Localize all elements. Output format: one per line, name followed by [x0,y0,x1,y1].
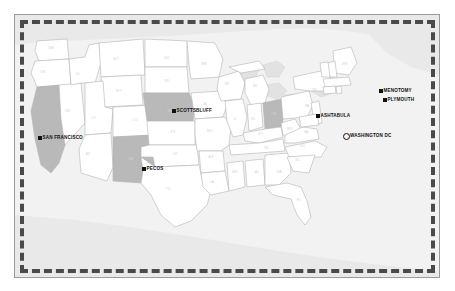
city-label: SAN FRANCISCO [43,135,83,141]
state-abbr-nc: NC [300,144,306,148]
city-square-icon [172,109,176,113]
city-label: ASHTABULA [321,113,351,119]
state-ma [323,77,351,87]
state-abbr-pa: PA [305,104,310,108]
state-abbr-wv: WV [287,127,293,131]
state-abbr-nm: NM [128,157,134,161]
state-abbr-sd: SD [164,79,169,83]
state-abbr-in: IN [251,117,255,121]
state-az [79,133,113,181]
state-abbr-wi: WI [225,82,230,86]
map-figure: WAORCANVIDMTWYUTAZNMCONDSDNEKSOKTXMNIAMO… [0,0,455,291]
state-me [333,47,357,75]
state-vt [320,62,330,77]
us-map-svg: WAORCANVIDMTWYUTAZNMCONDSDNEKSOKTXMNIAMO… [15,15,439,277]
state-abbr-la: LA [210,180,215,184]
state-wi [217,71,245,101]
city-square-icon [38,136,42,140]
state-abbr-ny: NY [312,88,318,92]
state-abbr-az: AZ [86,152,91,156]
state-abbr-mo: MO [207,129,213,133]
state-abbr-id: ID [76,72,80,76]
state-abbr-tn: TN [264,146,269,150]
state-wa [35,39,69,61]
state-nd [145,39,187,67]
city-square-icon [379,89,383,93]
state-abbr-wa: WA [48,46,54,50]
state-abbr-mn: MN [201,62,207,66]
state-abbr-wy: WY [116,89,122,93]
state-nc [285,141,327,157]
state-mo [195,117,231,151]
state-abbr-nd: ND [164,56,170,60]
state-sc [287,155,315,173]
state-abbr-tx: TX [166,187,171,191]
city-square-icon [142,167,146,171]
state-abbr-fl: FL [297,198,301,202]
state-abbr-al: AL [255,170,260,174]
state-abbr-ut: UT [92,116,97,120]
city-label: PECOS [147,166,164,172]
state-ri [336,86,342,94]
state-mi-up [229,61,265,73]
state-in [247,103,263,131]
map-viewport: WAORCANVIDMTWYUTAZNMCONDSDNEKSOKTXMNIAMO… [15,15,439,277]
state-abbr-me: ME [342,62,348,66]
state-abbr-ms: MS [232,170,238,174]
state-abbr-or: OR [40,70,46,74]
city-circle-icon [343,133,350,140]
state-abbr-sc: SC [295,158,300,162]
state-fl [265,183,311,225]
state-abbr-ok: OK [172,152,178,156]
state-abbr-ga: GA [276,170,282,174]
state-abbr-va: VA [304,130,309,134]
state-wy [101,75,143,107]
state-ct [323,86,336,94]
state-or [31,59,71,87]
city-square-icon [383,98,387,102]
city-square-icon [316,114,320,118]
state-abbr-co: CO [132,118,138,122]
city-label: SCOTTSBLUFF [177,108,212,114]
state-abbr-ar: AR [208,155,213,159]
state-abbr-nv: NV [65,109,71,113]
city-label: WASHINGTON DC [350,133,391,139]
state-ms [227,161,245,191]
state-abbr-il: IL [233,117,236,121]
state-mt [99,39,145,77]
state-mi [245,75,269,105]
city-label: PLYMOUTH [388,97,415,103]
state-abbr-mi: MI [253,84,257,88]
state-mn [187,41,223,79]
city-label: MENOTOMY [384,88,412,94]
state-abbr-ky: KY [259,132,264,136]
state-abbr-ks: KS [171,130,176,134]
state-id [69,43,101,85]
state-nj [311,101,321,115]
state-abbr-mt: MT [113,57,118,61]
state-abbr-ia: IA [203,102,207,106]
state-abbr-oh: OH [271,112,277,116]
